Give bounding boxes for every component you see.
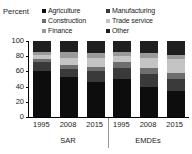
bar-series-container bbox=[29, 41, 189, 117]
y-tick-20: 20 bbox=[16, 98, 24, 106]
segment-manufacturing bbox=[167, 79, 185, 91]
legend-swatch-other bbox=[106, 29, 110, 33]
x-tick-label-1: 2008 bbox=[55, 120, 82, 129]
legend-label-construction: Construction bbox=[48, 16, 86, 26]
bar-emdes-2015 bbox=[167, 41, 185, 117]
x-tick-label-5: 2015 bbox=[161, 120, 188, 129]
segment-agriculture bbox=[140, 87, 158, 117]
segment-agriculture bbox=[167, 91, 185, 117]
legend-label-agriculture: Agriculture bbox=[48, 6, 80, 16]
x-axis-group-labels: SAREMDEs bbox=[28, 136, 188, 145]
stacked-bar-chart: Percent Agriculture Manufacturing Constr… bbox=[0, 0, 192, 154]
y-tick-100: 100 bbox=[11, 37, 24, 45]
segment-other bbox=[140, 41, 158, 53]
bar-sar-2015 bbox=[87, 41, 105, 117]
chart-legend: Agriculture Manufacturing Construction T… bbox=[42, 6, 190, 36]
bar-slot bbox=[109, 41, 136, 117]
bar-emdes-2008 bbox=[140, 41, 158, 117]
x-tick-label-2: 2015 bbox=[81, 120, 108, 129]
legend-label-trade-service: Trade service bbox=[112, 16, 153, 26]
segment-manufacturing bbox=[33, 62, 51, 71]
bar-emdes-1995 bbox=[113, 41, 131, 117]
bar-slot bbox=[56, 41, 83, 117]
legend-item-finance: Finance bbox=[42, 26, 104, 36]
bar-sar-2008 bbox=[60, 41, 78, 117]
bar-slot bbox=[82, 41, 109, 117]
y-axis-ticks: 100806040200 bbox=[0, 36, 26, 122]
segment-other bbox=[167, 41, 185, 55]
legend-item-construction: Construction bbox=[42, 16, 104, 26]
segment-agriculture bbox=[87, 82, 105, 117]
bar-slot bbox=[162, 41, 189, 117]
segment-other bbox=[113, 41, 131, 52]
segment-other bbox=[87, 41, 105, 53]
legend-label-finance: Finance bbox=[48, 26, 72, 36]
segment-trade-service bbox=[167, 59, 185, 73]
legend-swatch-construction bbox=[42, 19, 46, 23]
segment-agriculture bbox=[33, 71, 51, 117]
y-tick-0: 0 bbox=[20, 113, 24, 121]
legend-item-other: Other bbox=[106, 26, 192, 36]
legend-item-agriculture: Agriculture bbox=[42, 6, 104, 16]
legend-swatch-finance bbox=[42, 29, 46, 33]
x-tick-label-0: 1995 bbox=[28, 120, 55, 129]
legend-item-trade-service: Trade service bbox=[106, 16, 192, 26]
segment-trade-service bbox=[140, 58, 158, 68]
bar-slot bbox=[136, 41, 163, 117]
bar-sar-1995 bbox=[33, 41, 51, 117]
segment-trade-service bbox=[60, 58, 78, 66]
segment-manufacturing bbox=[113, 68, 131, 79]
legend-swatch-trade-service bbox=[106, 19, 110, 23]
x-axis-tick-labels: 199520082015199520082015 bbox=[28, 120, 188, 129]
y-axis-title: Percent bbox=[3, 7, 29, 16]
y-tick-40: 40 bbox=[16, 83, 24, 91]
segment-agriculture bbox=[60, 77, 78, 117]
legend-label-other: Other bbox=[112, 26, 129, 36]
group-label-emdes: EMDEs bbox=[108, 136, 188, 145]
bar-slot bbox=[29, 41, 56, 117]
group-label-sar: SAR bbox=[28, 136, 108, 145]
legend-swatch-manufacturing bbox=[106, 9, 110, 13]
segment-trade-service bbox=[87, 58, 105, 67]
segment-other bbox=[60, 41, 78, 52]
segment-other bbox=[33, 41, 51, 52]
x-tick-label-4: 2008 bbox=[135, 120, 162, 129]
legend-item-manufacturing: Manufacturing bbox=[106, 6, 192, 16]
legend-label-manufacturing: Manufacturing bbox=[112, 6, 155, 16]
segment-manufacturing bbox=[60, 69, 78, 77]
y-tick-60: 60 bbox=[16, 68, 24, 76]
segment-manufacturing bbox=[140, 74, 158, 87]
plot-area bbox=[28, 41, 189, 118]
segment-agriculture bbox=[113, 79, 131, 117]
x-tick-label-3: 1995 bbox=[108, 120, 135, 129]
y-tick-80: 80 bbox=[16, 52, 24, 60]
legend-swatch-agriculture bbox=[42, 9, 46, 13]
segment-manufacturing bbox=[87, 71, 105, 82]
